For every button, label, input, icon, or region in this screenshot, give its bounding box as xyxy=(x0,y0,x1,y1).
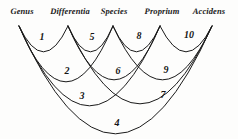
arc-number-3: 3 xyxy=(80,90,85,101)
arc-9 xyxy=(113,26,212,80)
node-label-differentia: Differentia xyxy=(50,6,90,16)
arc-number-8: 8 xyxy=(137,30,142,41)
arc-number-9: 9 xyxy=(164,64,169,75)
node-label-accidens: Accidens xyxy=(193,6,225,16)
predicables-diagram: GenusDifferentiaSpeciesPropriumAccidens … xyxy=(0,0,238,139)
node-label-proprium: Proprium xyxy=(145,6,180,16)
arc-number-2: 2 xyxy=(65,65,70,76)
arc-number-4: 4 xyxy=(115,117,120,128)
node-label-species: Species xyxy=(101,6,128,16)
arc-number-5: 5 xyxy=(90,31,95,42)
arc-number-1: 1 xyxy=(40,31,45,42)
arc-number-10: 10 xyxy=(184,29,194,40)
arc-number-6: 6 xyxy=(116,65,121,76)
node-label-genus: Genus xyxy=(10,6,33,16)
arc-number-7: 7 xyxy=(161,89,166,100)
